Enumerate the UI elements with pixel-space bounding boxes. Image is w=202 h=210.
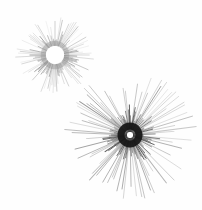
starburst-diagram [0,0,202,210]
burst-core [46,46,64,64]
figure-canvas [0,0,202,210]
burst-core [127,132,133,138]
